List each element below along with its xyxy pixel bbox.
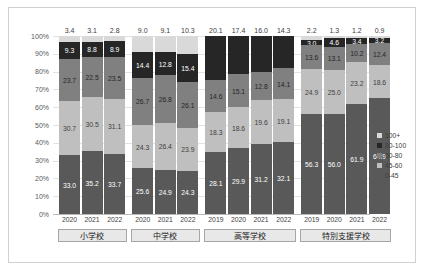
bar-segment-80-100[interactable]: 8.8 — [82, 42, 103, 58]
bar-segment-60-80[interactable]: 15.1 — [228, 74, 249, 107]
bar-中学校-2020[interactable]: 9.014.426.724.325.6 — [132, 36, 153, 214]
bar-segment-45-60[interactable]: 24.3 — [132, 125, 153, 168]
legend-label: 0-45 — [385, 172, 399, 179]
bar-segment-80-100[interactable]: 4.6 — [324, 38, 345, 46]
bar-segment-60-80[interactable]: 23.5 — [104, 57, 125, 99]
bar-segment-0-45[interactable]: 35.2 — [82, 151, 103, 214]
y-axis-tick-10: 10% — [15, 193, 49, 200]
bar-小学校-2022[interactable]: 2.88.923.531.133.7 — [104, 36, 125, 214]
bar-segment-0-45[interactable]: 33.7 — [104, 154, 125, 214]
bar-特別支援学校-2020[interactable]: 1.34.613.125.056.0 — [324, 36, 345, 214]
bar-segment-0-45[interactable]: 25.6 — [132, 168, 153, 214]
bar-segment-80-100[interactable]: 14.4 — [132, 52, 153, 78]
bar-value-label: 24.3 — [132, 143, 153, 150]
bar-segment-60-80[interactable]: 26.7 — [132, 78, 153, 126]
bar-segment-45-60[interactable]: 25.0 — [324, 70, 345, 115]
bar-中学校-2022[interactable]: 10.315.426.123.924.3 — [177, 36, 198, 214]
bar-高等学校-2019[interactable]: 20.114.618.328.1 — [205, 36, 226, 214]
bar-segment-60-80[interactable]: 26.8 — [155, 75, 176, 123]
legend-item-80-100[interactable]: 80-100 — [377, 140, 421, 150]
bar-value-label: 3.1 — [82, 27, 103, 34]
bar-segment-0-45[interactable]: 33.0 — [59, 155, 80, 214]
bar-segment-0-45[interactable]: 56.0 — [324, 114, 345, 214]
bar-segment-45-60[interactable]: 30.5 — [82, 97, 103, 151]
bar-segment-80-100[interactable]: 14.3 — [273, 36, 294, 68]
bar-value-label: 56.3 — [301, 160, 322, 167]
bar-segment-45-60[interactable]: 18.3 — [205, 112, 226, 152]
bar-segment-60-80[interactable]: 12.4 — [369, 43, 390, 65]
bar-value-label: 24.9 — [155, 188, 176, 195]
bar-segment-45-60[interactable]: 18.6 — [228, 107, 249, 148]
bar-value-label: 20.1 — [205, 27, 226, 34]
bar-value-label: 30.7 — [59, 124, 80, 131]
bar-小学校-2020[interactable]: 3.49.323.730.733.0 — [59, 36, 80, 214]
bar-segment-60-80[interactable]: 10.2 — [346, 44, 367, 62]
bar-segment-60-80[interactable]: 22.5 — [82, 57, 103, 97]
bar-segment-80-100[interactable]: 16.0 — [251, 36, 272, 72]
legend-item-60-80[interactable]: 60-80 — [377, 150, 421, 160]
bar-value-label: 19.6 — [251, 119, 272, 126]
bar-segment-80-100[interactable]: 9.3 — [59, 42, 80, 59]
bar-高等学校-2020[interactable]: 17.415.118.629.9 — [228, 36, 249, 214]
legend-item-0-45[interactable]: 0-45 — [377, 170, 421, 180]
bar-segment-80-100[interactable]: 17.4 — [228, 36, 249, 74]
bar-segment-100+[interactable]: 9.0 — [132, 36, 153, 52]
bar-segment-60-80[interactable]: 23.7 — [59, 59, 80, 101]
bar-segment-100+[interactable]: 10.3 — [177, 36, 198, 54]
bar-value-label: 13.6 — [301, 54, 322, 61]
bar-segment-60-80[interactable]: 14.6 — [205, 80, 226, 112]
bar-segment-45-60[interactable]: 23.2 — [346, 62, 367, 103]
bar-segment-100+[interactable]: 9.1 — [155, 36, 176, 52]
bar-segment-45-60[interactable]: 18.6 — [369, 65, 390, 98]
bar-segment-60-80[interactable]: 26.1 — [177, 82, 198, 128]
bar-segment-60-80[interactable]: 12.8 — [251, 72, 272, 101]
bar-segment-80-100[interactable]: 8.9 — [104, 41, 125, 57]
bar-segment-0-45[interactable]: 32.1 — [273, 142, 294, 214]
bar-特別支援学校-2019[interactable]: 2.23.013.624.956.3 — [301, 36, 322, 214]
bar-中学校-2021[interactable]: 9.112.826.826.424.9 — [155, 36, 176, 214]
bar-segment-60-80[interactable]: 13.1 — [324, 47, 345, 70]
bar-value-label: 12.8 — [155, 60, 176, 67]
bar-segment-45-60[interactable]: 31.1 — [104, 99, 125, 154]
chart-frame: 100%90%80%70%60%50%40%30%20%10%0% 3.49.3… — [8, 7, 416, 263]
legend-swatch-icon — [377, 133, 382, 138]
bar-value-label: 33.7 — [104, 180, 125, 187]
bar-value-label: 3.4 — [59, 27, 80, 34]
bar-value-label: 2.2 — [301, 27, 322, 34]
bar-segment-45-60[interactable]: 26.4 — [155, 123, 176, 170]
bar-特別支援学校-2021[interactable]: 1.23.410.223.261.9 — [346, 36, 367, 214]
bar-value-label: 19.1 — [273, 117, 294, 124]
bar-segment-45-60[interactable]: 24.9 — [301, 69, 322, 113]
bar-segment-0-45[interactable]: 29.9 — [228, 148, 249, 214]
bar-segment-60-80[interactable]: 13.6 — [301, 45, 322, 69]
bar-segment-45-60[interactable]: 19.1 — [273, 99, 294, 142]
bar-segment-45-60[interactable]: 23.9 — [177, 128, 198, 171]
y-axis-tick-90: 90% — [15, 50, 49, 57]
legend-item-100+[interactable]: 100+ — [377, 130, 421, 140]
bar-segment-0-45[interactable]: 24.9 — [155, 170, 176, 214]
legend-label: 80-100 — [385, 142, 406, 149]
bar-segment-0-45[interactable]: 56.3 — [301, 114, 322, 214]
bar-segment-80-100[interactable]: 15.4 — [177, 54, 198, 81]
bar-segment-0-45[interactable]: 31.2 — [251, 144, 272, 214]
bar-value-label: 29.9 — [228, 178, 249, 185]
bar-segment-80-100[interactable]: 12.8 — [155, 52, 176, 75]
bar-segment-45-60[interactable]: 19.6 — [251, 100, 272, 144]
x-axis-group-labels: 小学校中学校高等学校特別支援学校 — [53, 229, 370, 245]
y-axis-tick-100: 100% — [15, 33, 49, 40]
legend-swatch-icon — [377, 173, 382, 178]
y-axis-tick-80: 80% — [15, 68, 49, 75]
bar-高等学校-2022[interactable]: 14.314.119.132.1 — [273, 36, 294, 214]
legend-item-45-60[interactable]: 45-60 — [377, 160, 421, 170]
bar-value-label: 12.4 — [369, 51, 390, 58]
legend-label: 60-80 — [385, 152, 402, 159]
bar-segment-0-45[interactable]: 28.1 — [205, 152, 226, 214]
bar-segment-0-45[interactable]: 24.3 — [177, 171, 198, 214]
bar-特別支援学校-2022[interactable]: 0.93.212.418.664.9 — [369, 36, 390, 214]
bar-高等学校-2021[interactable]: 16.012.819.631.2 — [251, 36, 272, 214]
bar-segment-60-80[interactable]: 14.1 — [273, 68, 294, 100]
bar-小学校-2021[interactable]: 3.18.822.530.535.2 — [82, 36, 103, 214]
bar-segment-80-100[interactable]: 20.1 — [205, 36, 226, 80]
bar-segment-0-45[interactable]: 61.9 — [346, 104, 367, 214]
bar-segment-45-60[interactable]: 30.7 — [59, 101, 80, 156]
